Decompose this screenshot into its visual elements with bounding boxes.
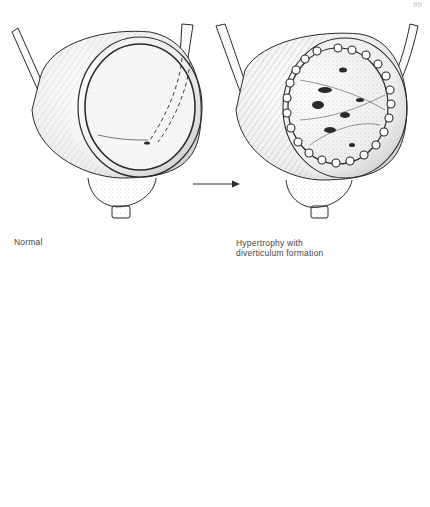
arrow-right-icon <box>193 181 240 188</box>
caption-normal: Normal <box>14 237 43 247</box>
caption-hypertrophy-line1: Hypertrophy with <box>236 238 303 248</box>
normal-bladder-figure <box>12 24 202 218</box>
bladder-illustration <box>0 0 430 507</box>
caption-hypertrophy-line2: diverticulum formation <box>236 248 324 258</box>
hypertrophy-bladder-figure <box>216 24 418 218</box>
